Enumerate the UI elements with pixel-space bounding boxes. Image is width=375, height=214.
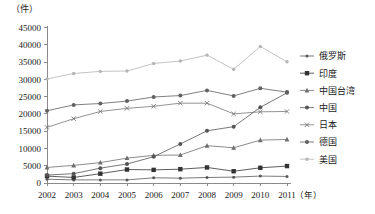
- series-6: [45, 45, 288, 81]
- data-point-marker: [99, 70, 102, 73]
- data-point-marker: [305, 106, 309, 110]
- data-point-marker: [71, 175, 75, 179]
- legend-item-6[interactable]: 美国: [300, 154, 337, 165]
- x-axis-tick-label: 2009: [225, 190, 244, 200]
- data-point-marker: [126, 178, 129, 181]
- chart-plot-area: 0500010000150002000025000300003500040000…: [0, 0, 375, 214]
- data-point-marker: [178, 167, 182, 171]
- data-point-marker: [285, 164, 289, 168]
- data-point-marker: [205, 129, 209, 133]
- legend-item-1[interactable]: 印度: [300, 68, 337, 79]
- y-axis-tick-label: 40000: [19, 40, 42, 50]
- y-axis-tick-label: 0: [37, 178, 42, 188]
- y-axis-tick-label: 35000: [19, 57, 42, 67]
- x-axis-tick-group: 2002200320042005200620072008200920102011: [38, 183, 296, 200]
- data-point-marker: [206, 176, 209, 179]
- legend-item-label: 中国: [319, 102, 337, 113]
- x-axis-title: （年）: [295, 190, 322, 200]
- data-point-marker: [205, 53, 208, 56]
- legend-item-label: 俄罗斯: [319, 50, 346, 61]
- data-point-marker: [232, 94, 236, 98]
- data-point-marker: [98, 166, 102, 170]
- data-point-marker: [45, 77, 48, 80]
- data-point-marker: [232, 125, 236, 129]
- data-point-marker: [306, 55, 309, 58]
- data-point-marker: [99, 178, 102, 181]
- data-point-marker: [72, 72, 75, 75]
- y-axis-tick-label: 15000: [19, 126, 42, 136]
- series-3: [45, 91, 289, 177]
- data-point-marker: [305, 158, 308, 161]
- data-point-marker: [179, 59, 182, 62]
- y-axis-tick-label: 20000: [19, 109, 42, 119]
- data-point-marker: [152, 95, 156, 99]
- data-point-marker: [258, 105, 262, 109]
- x-axis-tick-label: 2007: [171, 190, 190, 200]
- x-axis-tick-label: 2010: [251, 190, 270, 200]
- data-point-marker: [178, 94, 182, 98]
- data-point-marker: [232, 176, 235, 179]
- legend-item-label: 印度: [319, 68, 337, 79]
- data-point-marker: [152, 155, 156, 159]
- legend-item-label: 中国台湾: [319, 85, 355, 96]
- data-point-marker: [286, 175, 289, 178]
- legend-item-4[interactable]: 日本: [300, 119, 337, 130]
- x-axis-tick-label: 2005: [118, 190, 137, 200]
- data-point-marker: [152, 62, 155, 65]
- y-axis-tick-label: 25000: [19, 92, 42, 102]
- data-point-marker: [178, 142, 182, 146]
- series-2: [45, 137, 290, 170]
- data-point-marker: [231, 169, 235, 173]
- data-point-marker: [72, 103, 76, 107]
- data-point-marker: [179, 177, 182, 180]
- y-axis-tick-group: 0500010000150002000025000300003500040000…: [19, 23, 48, 189]
- data-point-marker: [98, 171, 102, 175]
- x-axis-tick-label: 2008: [198, 190, 217, 200]
- data-point-marker: [258, 86, 262, 90]
- data-point-marker: [205, 88, 209, 92]
- series-5: [45, 86, 289, 112]
- data-point-marker: [285, 60, 288, 63]
- data-point-marker: [259, 175, 262, 178]
- x-axis-tick-label: 2006: [145, 190, 164, 200]
- legend-item-2[interactable]: 中国台湾: [300, 85, 355, 96]
- chart-legend: 俄罗斯印度中国台湾中国日本德国美国: [300, 50, 355, 164]
- data-point-marker: [125, 162, 129, 166]
- data-point-marker: [259, 45, 262, 48]
- x-axis-tick-label: 2003: [65, 190, 84, 200]
- data-point-marker: [151, 168, 155, 172]
- data-point-marker: [305, 140, 309, 144]
- x-axis-tick-label: 2011: [278, 190, 296, 200]
- data-point-marker: [305, 71, 309, 75]
- data-point-marker: [258, 166, 262, 170]
- legend-item-label: 德国: [319, 136, 337, 147]
- data-point-marker: [98, 102, 102, 106]
- data-point-marker: [71, 117, 75, 121]
- y-axis-tick-label: 5000: [23, 161, 42, 171]
- data-point-marker: [205, 143, 210, 148]
- x-axis-tick-label: 2002: [38, 190, 56, 200]
- line-chart: （件） 050001000015000200002500030000350004…: [0, 0, 375, 214]
- y-axis-tick-label: 10000: [19, 144, 42, 154]
- legend-item-label: 日本: [319, 119, 337, 130]
- data-point-marker: [125, 99, 129, 103]
- data-point-marker: [125, 69, 128, 72]
- legend-item-label: 美国: [319, 154, 337, 165]
- data-point-marker: [285, 90, 289, 94]
- data-point-marker: [125, 167, 129, 171]
- y-axis-tick-label: 45000: [19, 23, 42, 33]
- series-4: [45, 101, 289, 130]
- y-axis-tick-label: 30000: [19, 75, 42, 85]
- data-point-marker: [232, 68, 235, 71]
- data-point-marker: [45, 173, 49, 177]
- data-point-marker: [45, 109, 49, 113]
- data-point-marker: [205, 165, 209, 169]
- data-point-marker: [152, 176, 155, 179]
- legend-item-5[interactable]: 德国: [300, 136, 337, 147]
- data-point-marker: [72, 172, 76, 176]
- legend-item-3[interactable]: 中国: [300, 102, 337, 113]
- legend-item-0[interactable]: 俄罗斯: [300, 50, 346, 61]
- x-axis-tick-label: 2004: [91, 190, 110, 200]
- series-group: [45, 45, 290, 182]
- series-0: [46, 175, 289, 182]
